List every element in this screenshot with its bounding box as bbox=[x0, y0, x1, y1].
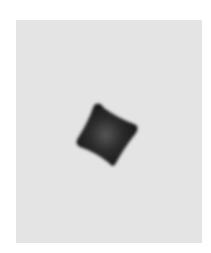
nanoparticle bbox=[0, 0, 211, 253]
